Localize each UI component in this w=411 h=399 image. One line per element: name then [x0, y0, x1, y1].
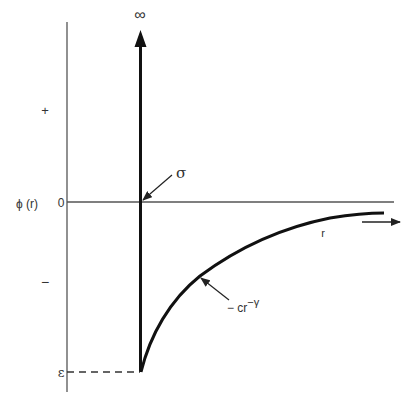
- plus-label: +: [41, 103, 49, 118]
- minus-label: −: [41, 274, 49, 290]
- formula-pointer-arrow: [201, 278, 229, 300]
- attractive-curve: [141, 213, 384, 372]
- sigma-pointer-arrow: [143, 175, 172, 200]
- infinity-label: ∞: [134, 6, 145, 23]
- potential-diagram: ∞ σ + 0 ϕ (r) − ε r − cr−γ: [0, 0, 411, 399]
- y-axis-label: ϕ (r): [16, 197, 38, 211]
- curve-formula: − cr−γ: [227, 296, 260, 315]
- sigma-label: σ: [176, 164, 186, 182]
- x-axis-label: r: [321, 227, 325, 239]
- infinity-arrow-head-icon: [135, 30, 147, 47]
- epsilon-label: ε: [58, 365, 65, 380]
- zero-label: 0: [58, 196, 65, 210]
- curve-formula-exponent: −γ: [247, 296, 259, 308]
- curve-formula-base: − cr: [227, 301, 247, 315]
